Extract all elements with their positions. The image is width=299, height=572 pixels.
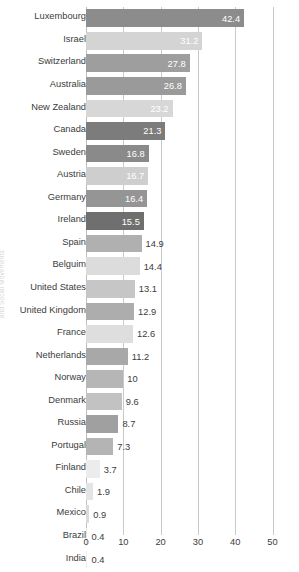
- bar-row[interactable]: Portugal7.3: [0, 435, 299, 458]
- bar-row[interactable]: Germany16.4: [0, 187, 299, 210]
- bar[interactable]: [86, 460, 100, 478]
- bar-value-label: 0.9: [93, 510, 106, 520]
- bar[interactable]: [86, 483, 93, 501]
- bar-value-label: 10: [127, 374, 137, 384]
- bar-row[interactable]: Ireland15.5: [0, 210, 299, 233]
- category-label: Mexico: [0, 507, 86, 517]
- bar-row[interactable]: New Zealand23.2: [0, 97, 299, 120]
- category-label: Australia: [0, 79, 86, 89]
- category-label: United Kingdom: [0, 305, 86, 315]
- bar-value-label: 1.9: [97, 487, 110, 497]
- bar-row[interactable]: Belguim14.4: [0, 255, 299, 278]
- bar[interactable]: [86, 393, 122, 411]
- bar[interactable]: [86, 370, 123, 388]
- category-label: Ireland: [0, 214, 86, 224]
- x-tick-label: 40: [223, 537, 247, 547]
- bar-value-label: 15.5: [122, 217, 140, 227]
- category-label: Denmark: [0, 395, 86, 405]
- x-axis: 01020304050: [0, 537, 299, 559]
- bar[interactable]: [86, 303, 134, 321]
- bar-row[interactable]: Luxembourg42.4: [0, 7, 299, 30]
- category-label: Netherlands: [0, 350, 86, 360]
- bar-row[interactable]: Canada21.3: [0, 120, 299, 143]
- bar[interactable]: [86, 257, 140, 275]
- bar-value-label: 12.6: [137, 329, 155, 339]
- bar-row[interactable]: Austria16.7: [0, 165, 299, 188]
- bar-value-label: 8.7: [122, 419, 135, 429]
- category-label: Austria: [0, 169, 86, 179]
- bar-row[interactable]: Mexico0.9: [0, 503, 299, 526]
- category-label: Sweden: [0, 147, 86, 157]
- bar-chart: and Social Movements Luxembourg42.4Israe…: [0, 0, 299, 572]
- bar[interactable]: [86, 505, 89, 523]
- bar[interactable]: [86, 325, 133, 343]
- category-label: United States: [0, 282, 86, 292]
- bar-value-label: 16.4: [125, 194, 143, 204]
- bar-row[interactable]: Chile1.9: [0, 480, 299, 503]
- bar-value-label: 9.6: [126, 397, 139, 407]
- bar-value-label: 14.4: [144, 262, 162, 272]
- bar-row[interactable]: Russia8.7: [0, 413, 299, 436]
- x-tick-label: 20: [149, 537, 173, 547]
- x-tick-label: 0: [74, 537, 98, 547]
- category-label: Switzerland: [0, 56, 86, 66]
- bar-row[interactable]: United States13.1: [0, 278, 299, 301]
- bar-row[interactable]: Switzerland27.8: [0, 52, 299, 75]
- bar-value-label: 11.2: [132, 352, 149, 362]
- bar-value-label: 13.1: [139, 284, 157, 294]
- bar-row[interactable]: Australia26.8: [0, 75, 299, 98]
- x-tick-label: 10: [111, 537, 135, 547]
- bar[interactable]: [86, 415, 118, 433]
- bar-row[interactable]: France12.6: [0, 323, 299, 346]
- category-label: Chile: [0, 485, 86, 495]
- category-label: Canada: [0, 124, 86, 134]
- bar-value-label: 7.3: [117, 442, 130, 452]
- category-label: Norway: [0, 372, 86, 382]
- category-label: Belguim: [0, 259, 86, 269]
- category-label: France: [0, 327, 86, 337]
- category-label: Spain: [0, 237, 86, 247]
- category-label: Luxembourg: [0, 11, 86, 21]
- bar-row[interactable]: Norway10: [0, 368, 299, 391]
- bar-value-label: 3.7: [104, 465, 117, 475]
- category-label: Russia: [0, 417, 86, 427]
- bar[interactable]: [86, 438, 113, 456]
- bar-value-label: 21.3: [143, 126, 161, 136]
- bar[interactable]: [86, 9, 244, 27]
- category-label: Finland: [0, 462, 86, 472]
- category-label: New Zealand: [0, 102, 86, 112]
- bar[interactable]: [86, 348, 128, 366]
- bar-value-label: 16.7: [126, 171, 144, 181]
- bar-row[interactable]: Netherlands11.2: [0, 345, 299, 368]
- bar-rows: Luxembourg42.4Israel31.2Switzerland27.8A…: [0, 7, 299, 572]
- bar-value-label: 23.2: [150, 104, 168, 114]
- bar-value-label: 27.8: [168, 59, 186, 69]
- bar-row[interactable]: Spain14.9: [0, 232, 299, 255]
- bar-value-label: 31.2: [180, 36, 198, 46]
- bar[interactable]: [86, 280, 135, 298]
- x-tick-label: 30: [186, 537, 210, 547]
- bar-value-label: 16.8: [127, 149, 145, 159]
- bar-row[interactable]: Israel31.2: [0, 30, 299, 53]
- bar-row[interactable]: Denmark9.6: [0, 390, 299, 413]
- bar-value-label: 14.9: [146, 239, 164, 249]
- bar-value-label: 12.9: [138, 307, 156, 317]
- bar-row[interactable]: Sweden16.8: [0, 142, 299, 165]
- category-label: Germany: [0, 192, 86, 202]
- bar-value-label: 42.4: [222, 14, 240, 24]
- category-label: Israel: [0, 34, 86, 44]
- category-label: Portugal: [0, 440, 86, 450]
- bar-value-label: 26.8: [164, 81, 182, 91]
- x-tick-label: 50: [261, 537, 285, 547]
- bar-row[interactable]: United Kingdom12.9: [0, 300, 299, 323]
- bar-row[interactable]: Finland3.7: [0, 458, 299, 481]
- bar[interactable]: [86, 235, 142, 253]
- plot-area: Luxembourg42.4Israel31.2Switzerland27.8A…: [0, 7, 299, 537]
